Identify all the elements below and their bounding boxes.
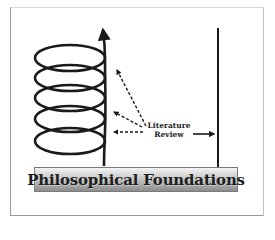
banner-label: Philosophical Foundations [27, 171, 245, 189]
literature-review-label: Literature Review [146, 121, 192, 139]
philosophical-foundations-banner: Philosophical Foundations [34, 167, 238, 192]
literature-review-line1: Literature [146, 121, 192, 130]
dashed-arrows [114, 70, 146, 132]
coil-spiral-icon [35, 30, 105, 166]
literature-review-line2: Review [146, 130, 192, 139]
